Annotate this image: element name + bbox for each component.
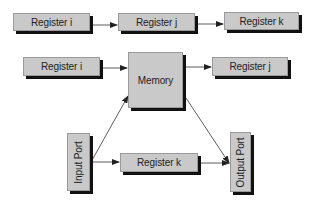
memory-box: Memory — [128, 52, 183, 108]
register-j-top-label: Register j — [136, 17, 177, 28]
register-i-middle-box: Register i — [23, 57, 100, 76]
register-k-bottom-label: Register k — [137, 157, 181, 168]
register-k-top-box: Register k — [224, 12, 299, 30]
register-i-middle-label: Register i — [41, 61, 82, 72]
output-port-box: Output Port — [230, 132, 251, 192]
register-i-top-label: Register i — [31, 17, 72, 28]
register-j-top-box: Register j — [118, 13, 195, 31]
memory-label: Memory — [138, 75, 174, 86]
register-k-bottom-box: Register k — [120, 153, 198, 172]
register-k-top-label: Register k — [239, 16, 283, 27]
register-j-middle-box: Register j — [212, 57, 288, 76]
input-port-label: Input Port — [73, 141, 84, 183]
input-port-box: Input Port — [67, 133, 90, 191]
register-j-middle-label: Register j — [229, 61, 270, 72]
register-transfer-diagram: Register i Register j Register k Registe… — [0, 0, 313, 203]
output-port-label: Output Port — [235, 137, 246, 187]
register-i-top-box: Register i — [13, 13, 90, 31]
